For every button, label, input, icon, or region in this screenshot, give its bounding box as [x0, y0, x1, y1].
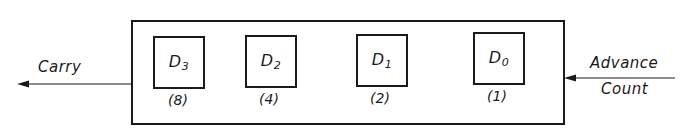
flipflop-d0: D0 — [473, 32, 525, 85]
flipflop-d0-label: D0 — [489, 48, 509, 69]
carry-arrowhead-icon — [17, 81, 29, 88]
flipflop-d2-label: D2 — [261, 51, 281, 72]
weight-d0: (1) — [467, 88, 527, 104]
flipflop-d2: D2 — [245, 35, 297, 88]
weight-d3: (8) — [148, 92, 208, 108]
advance-label: Advance — [590, 54, 658, 72]
flipflop-d1: D1 — [356, 34, 408, 87]
count-label: Count — [601, 80, 648, 98]
weight-d2: (4) — [239, 91, 299, 107]
carry-label: Carry — [38, 58, 81, 76]
weight-d1: (2) — [350, 90, 410, 106]
advance-count-arrowhead-icon — [564, 75, 576, 82]
flipflop-d3-label: D3 — [169, 52, 189, 73]
flipflop-d3: D3 — [153, 36, 205, 89]
flipflop-d1-label: D1 — [372, 50, 392, 71]
